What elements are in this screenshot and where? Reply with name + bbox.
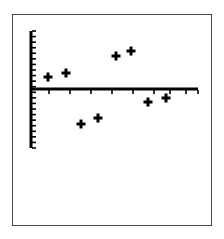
- data-point-marker: [127, 47, 136, 56]
- data-point-marker: [162, 94, 171, 103]
- data-point-marker: [94, 114, 103, 123]
- scatter-plot-screenshot: [0, 0, 224, 239]
- x-axis: [31, 89, 198, 94]
- data-point-marker: [62, 69, 71, 78]
- data-point-marker: [112, 52, 121, 61]
- data-point-marker: [77, 120, 86, 129]
- data-point-marker: [144, 98, 153, 107]
- scatter-plot-canvas: [0, 0, 224, 239]
- data-point-marker: [44, 73, 53, 82]
